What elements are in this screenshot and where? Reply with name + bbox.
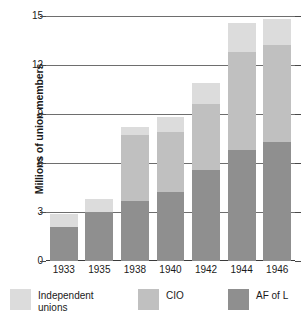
y-tick-mark-right-9	[295, 114, 301, 115]
bar-segment-1933-independent-unions	[50, 214, 78, 226]
legend-swatch-icon	[10, 289, 31, 310]
union-membership-stacked-bar-chart: Millions of union members 03691215 19331…	[0, 0, 302, 327]
y-tick-mark-right-12	[295, 65, 301, 66]
x-tick-label-1933: 1933	[46, 264, 82, 276]
y-tick-mark-right-6	[295, 163, 301, 164]
plot-area: 03691215	[46, 16, 295, 261]
y-tick-label-9: 9	[3, 109, 43, 119]
legend-label: CIO	[166, 289, 184, 302]
bar-group-1938	[121, 16, 149, 261]
legend-swatch-icon	[228, 289, 249, 310]
legend-label: Independent unions	[38, 289, 94, 313]
x-tick-label-1938: 1938	[117, 264, 153, 276]
bar-segment-1940-independent-unions	[157, 117, 185, 132]
y-tick-label-3: 3	[3, 207, 43, 217]
x-tick-label-1935: 1935	[82, 264, 118, 276]
y-tick-mark-right-3	[295, 212, 301, 213]
bar-group-1933	[50, 16, 78, 261]
bar-group-1946	[263, 16, 291, 261]
x-tick-label-1942: 1942	[188, 264, 224, 276]
bar-segment-1942-af-of-l	[192, 170, 220, 261]
bar-group-1940	[157, 16, 185, 261]
legend-swatch-icon	[138, 289, 159, 310]
x-tick-label-1940: 1940	[153, 264, 189, 276]
bar-segment-1944-cio	[228, 52, 256, 150]
bar-segment-1938-cio	[121, 135, 149, 200]
x-tick-label-1944: 1944	[224, 264, 260, 276]
bar-segment-1933-af-of-l	[50, 227, 78, 261]
bar-segment-1944-independent-unions	[228, 23, 256, 52]
bar-segment-1942-independent-unions	[192, 83, 220, 104]
bar-group-1935	[85, 16, 113, 261]
bar-segment-1940-cio	[157, 132, 185, 192]
bar-group-1944	[228, 16, 256, 261]
legend-item-independent-unions: Independent unions	[10, 289, 94, 313]
chart-legend: Independent unionsCIOAF of L	[10, 289, 302, 323]
y-tick-mark-left-0	[40, 261, 46, 262]
y-tick-label-12: 12	[3, 60, 43, 70]
bar-segment-1946-independent-unions	[263, 19, 291, 45]
bar-segment-1935-independent-unions	[85, 199, 113, 212]
x-axis-ticks: 1933193519381940194219441946	[46, 264, 295, 278]
bar-segment-1946-af-of-l	[263, 142, 291, 261]
x-tick-label-1946: 1946	[259, 264, 295, 276]
y-tick-label-6: 6	[3, 158, 43, 168]
y-tick-mark-right-15	[295, 16, 301, 17]
bar-segment-1940-af-of-l	[157, 192, 185, 261]
bars	[46, 16, 295, 261]
bar-segment-1942-cio	[192, 104, 220, 169]
legend-label: AF of L	[256, 289, 288, 302]
y-tick-label-15: 15	[3, 11, 43, 21]
bar-segment-1946-cio	[263, 45, 291, 141]
bar-group-1942	[192, 16, 220, 261]
bar-segment-1938-af-of-l	[121, 201, 149, 261]
bar-segment-1944-af-of-l	[228, 150, 256, 261]
legend-item-af-of-l: AF of L	[228, 289, 288, 310]
bar-segment-1935-af-of-l	[85, 212, 113, 261]
y-tick-mark-right-0	[295, 261, 301, 262]
y-tick-label-0: 0	[3, 256, 43, 266]
bar-segment-1938-independent-unions	[121, 127, 149, 135]
legend-item-cio: CIO	[138, 289, 184, 310]
